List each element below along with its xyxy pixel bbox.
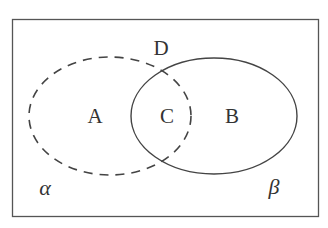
solid-ellipse — [131, 58, 297, 174]
label-alpha: α — [39, 175, 51, 200]
label-d: D — [153, 36, 168, 60]
label-c: C — [160, 104, 174, 128]
label-a: A — [87, 104, 103, 128]
label-b: B — [225, 104, 239, 128]
label-beta: β — [268, 174, 280, 199]
venn-diagram: A C B D α β — [0, 0, 328, 228]
